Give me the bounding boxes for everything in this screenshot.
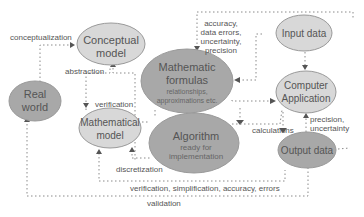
modeling-process-diagram: Real world Conceptual model Mathematical… <box>0 0 364 217</box>
edge-conceptualization <box>40 45 70 82</box>
node-formulas-line1: Mathematic <box>159 61 216 73</box>
node-mathematic-formulas: Mathematic formulas relationships, appro… <box>141 49 233 113</box>
node-algorithm-line1: Algorithm <box>173 130 219 142</box>
node-input-data-line1: Input data <box>282 28 327 39</box>
label-input-data-errors: data errors, <box>201 28 242 37</box>
arrow-precision <box>303 113 309 118</box>
arrow-to-math-model <box>83 103 89 108</box>
arrow-input-to-formulas <box>234 77 240 83</box>
arrow-discretization <box>129 147 135 152</box>
node-mathematical-model-line2: model <box>96 130 123 141</box>
node-real-world-line2: world <box>21 101 48 113</box>
node-formulas-line2: formulas <box>166 74 209 86</box>
label-verification: verification <box>95 100 133 109</box>
label-calculations: calculations <box>252 126 294 135</box>
node-algorithm: Algorithm ready for implementation <box>149 113 239 173</box>
label-verification-chain: verification, simplification, accuracy, … <box>130 184 280 193</box>
label-discretization: discretization <box>116 165 163 174</box>
node-output-data-line1: Output data <box>281 145 334 156</box>
arrow-input-to-app <box>302 65 308 70</box>
label-conceptualization: conceptualization <box>10 33 72 42</box>
node-mathematical-model-line1: Mathematical <box>80 117 139 128</box>
node-computer-application-line2: Application <box>282 93 331 104</box>
label-uncertainty: uncertainty <box>310 124 349 133</box>
node-real-world: Real world <box>9 81 61 121</box>
node-algorithm-sub2: implementation <box>169 152 223 161</box>
arrow-verification-chain <box>96 149 102 154</box>
node-formulas-sub2: approximations etc. <box>157 97 218 105</box>
arrow-conceptualization <box>70 42 75 48</box>
node-conceptual-model: Conceptual model <box>77 23 145 65</box>
node-formulas-sub1: relationships, <box>166 88 207 96</box>
label-input-accuracy: accuracy, <box>204 19 238 28</box>
node-algorithm-sub1: ready for <box>180 143 212 152</box>
node-real-world-line1: Real <box>24 88 47 100</box>
node-mathematical-model: Mathematical model <box>79 108 141 148</box>
label-input-uncertainty: uncertainty, <box>201 37 242 46</box>
edge-formulas-to-app <box>232 100 270 101</box>
node-computer-application-line1: Computer <box>284 80 329 91</box>
label-validation: validation <box>147 199 181 208</box>
label-input-precision: precision <box>205 46 237 55</box>
node-computer-application: Computer Application <box>276 71 336 113</box>
edge-right-output <box>338 148 350 149</box>
arrow-formulas-to-app <box>270 98 276 104</box>
node-input-data: Input data <box>276 15 332 51</box>
label-abstraction: abstraction <box>65 67 104 76</box>
edge-input-left <box>240 34 262 80</box>
node-output-data: Output data <box>278 132 336 168</box>
label-precision: precision, <box>310 115 344 124</box>
node-conceptual-model-line2: model <box>96 47 126 59</box>
node-conceptual-model-line1: Conceptual <box>83 34 139 46</box>
